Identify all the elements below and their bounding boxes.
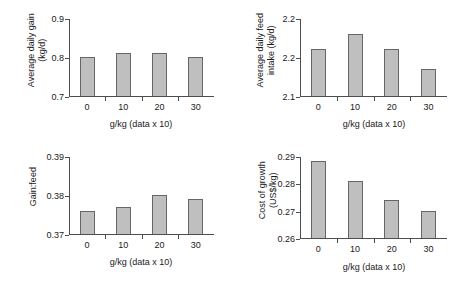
x-axis-title: g/kg (data x 10) — [110, 120, 173, 129]
x-tick-label: 20 — [155, 241, 165, 250]
bar — [116, 53, 131, 96]
y-axis-title: Cost of growth(US$/kg) — [257, 139, 280, 241]
y-tick-label: 0.9 — [51, 15, 64, 24]
chart-panel-average-daily-gain: 0.70.80.90102030 Average daily gain(kg/d… — [0, 0, 234, 144]
plot-area: 0.70.80.90102030 — [69, 19, 214, 97]
bar — [311, 161, 326, 238]
bar — [348, 181, 363, 238]
y-tick-mark — [296, 239, 300, 240]
y-axis-line — [69, 157, 70, 235]
y-axis-title-line: Average daily gain — [26, 0, 37, 101]
y-axis-title-line: (US$/kg) — [268, 139, 279, 241]
chart-panel-cost-of-growth: 0.260.270.280.290102030 Cost of growth(U… — [233, 143, 467, 287]
y-tick-label: 0.38 — [46, 192, 64, 201]
x-axis-title: g/kg (data x 10) — [343, 120, 406, 129]
x-tick-mark — [374, 97, 375, 101]
y-tick-mark — [296, 212, 300, 213]
bar — [311, 49, 326, 96]
y-axis-title-line: Cost of growth — [257, 139, 268, 241]
plot-area: 2.12.22.20102030 — [300, 19, 447, 97]
x-tick-label: 0 — [316, 103, 321, 112]
x-tick-label: 10 — [118, 103, 128, 112]
x-tick-label: 30 — [191, 241, 201, 250]
bar — [384, 200, 399, 238]
y-axis-title: Gain:feed — [28, 154, 39, 220]
x-tick-mark — [142, 235, 143, 239]
y-tick-label: 2.2 — [282, 15, 295, 24]
y-tick-mark — [65, 196, 69, 197]
y-tick-label: 0.7 — [51, 93, 64, 102]
y-tick-mark — [65, 19, 69, 20]
x-tick-mark — [410, 97, 411, 101]
x-tick-label: 0 — [85, 103, 90, 112]
y-tick-label: 2.1 — [282, 93, 295, 102]
bar — [384, 49, 399, 96]
y-axis-title-line: (kg/d) — [37, 0, 48, 101]
x-tick-mark — [410, 239, 411, 243]
bar — [348, 34, 363, 96]
bar — [421, 69, 436, 96]
x-tick-mark — [142, 97, 143, 101]
y-axis-line — [300, 157, 301, 239]
y-axis-title-line: Average daily feed — [255, 0, 266, 101]
x-tick-label: 20 — [155, 103, 165, 112]
x-tick-label: 30 — [424, 245, 434, 254]
x-tick-mark — [105, 97, 106, 101]
bar — [80, 57, 95, 96]
y-tick-mark — [65, 235, 69, 236]
bar — [152, 195, 167, 234]
y-tick-mark — [296, 58, 300, 59]
y-axis-line — [300, 19, 301, 97]
y-axis-title-line: Gain:feed — [28, 154, 39, 220]
x-tick-label: 20 — [387, 245, 397, 254]
x-axis-title: g/kg (data x 10) — [343, 263, 406, 272]
y-tick-label: 0.8 — [51, 54, 64, 63]
x-tick-mark — [178, 235, 179, 239]
y-tick-label: 0.39 — [46, 153, 64, 162]
y-tick-label: 0.27 — [277, 207, 295, 216]
y-axis-line — [69, 19, 70, 97]
x-tick-label: 0 — [85, 241, 90, 250]
x-tick-label: 20 — [387, 103, 397, 112]
x-tick-mark — [337, 97, 338, 101]
y-tick-label: 0.29 — [277, 153, 295, 162]
y-tick-label: 2.2 — [282, 54, 295, 63]
x-tick-mark — [178, 97, 179, 101]
x-tick-label: 10 — [350, 103, 360, 112]
x-tick-label: 10 — [118, 241, 128, 250]
x-tick-label: 10 — [350, 245, 360, 254]
y-tick-label: 0.37 — [46, 231, 64, 240]
y-tick-mark — [65, 58, 69, 59]
bar — [116, 207, 131, 234]
x-tick-label: 30 — [424, 103, 434, 112]
y-tick-label: 0.26 — [277, 235, 295, 244]
y-tick-mark — [296, 157, 300, 158]
bar — [421, 211, 436, 238]
x-tick-label: 0 — [316, 245, 321, 254]
plot-area: 0.260.270.280.290102030 — [300, 157, 447, 239]
y-tick-mark — [65, 97, 69, 98]
chart-panel-average-daily-feed-intake: 2.12.22.20102030 Average daily feedintak… — [233, 0, 467, 144]
bar — [152, 53, 167, 96]
x-tick-mark — [374, 239, 375, 243]
y-tick-mark — [296, 184, 300, 185]
bar — [188, 57, 203, 96]
plot-area: 0.370.380.390102030 — [69, 157, 214, 235]
y-axis-title: Average daily feedintake (kg/d) — [255, 0, 278, 101]
y-tick-mark — [296, 19, 300, 20]
chart-panel-gain-feed: 0.370.380.390102030 Gain:feed g/kg (data… — [0, 143, 234, 287]
bar — [188, 199, 203, 234]
y-tick-label: 0.28 — [277, 180, 295, 189]
bar — [80, 211, 95, 234]
x-tick-label: 30 — [191, 103, 201, 112]
x-tick-mark — [105, 235, 106, 239]
x-axis-title: g/kg (data x 10) — [110, 258, 173, 267]
x-tick-mark — [337, 239, 338, 243]
y-axis-title: Average daily gain(kg/d) — [26, 0, 49, 101]
y-tick-mark — [65, 157, 69, 158]
y-tick-mark — [296, 97, 300, 98]
y-axis-title-line: intake (kg/d) — [266, 0, 277, 101]
